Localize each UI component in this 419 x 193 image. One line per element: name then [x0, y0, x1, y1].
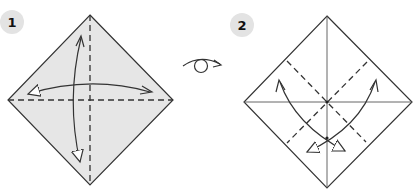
- step-2: 2: [230, 13, 412, 188]
- step-1: 1: [0, 10, 173, 185]
- turn-over-icon: [183, 59, 221, 72]
- step-1-badge: 1: [0, 10, 24, 34]
- step-number: 1: [7, 15, 16, 30]
- step-2-badge: 2: [230, 13, 254, 37]
- center-point: [325, 100, 328, 103]
- intersection-point: [325, 136, 328, 139]
- origami-diagram: 1 2: [0, 0, 419, 193]
- step-number: 2: [237, 18, 246, 33]
